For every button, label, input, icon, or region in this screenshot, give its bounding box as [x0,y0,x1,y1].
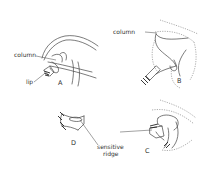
panel-a-drawing [34,36,98,86]
panel-c-drawing [120,100,196,151]
label-lip-a: lip [26,79,33,85]
panel-label-b: B [177,78,181,85]
label-ridge: ridge [103,151,118,157]
panel-label-c: C [145,148,150,155]
panel-d-drawing [58,112,98,145]
label-column-b: column [113,29,135,35]
panel-label-d: D [71,140,76,147]
panel-label-a: A [58,80,62,87]
panel-b-drawing [141,20,198,88]
label-column-a: column [14,52,36,58]
